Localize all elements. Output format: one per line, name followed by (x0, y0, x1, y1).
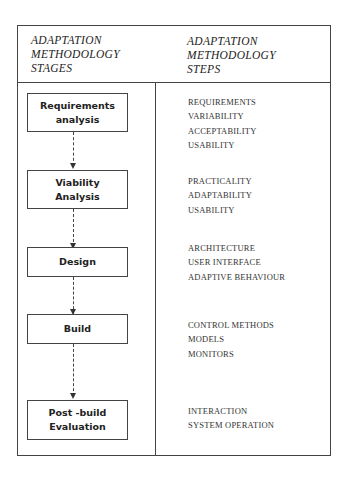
header-steps: ADAPTATION METHODOLOGY STEPS (187, 34, 276, 76)
steps-post-build-evaluation: INTERACTION SYSTEM OPERATION (188, 404, 274, 433)
steps-requirements-analysis: REQUIREMENTS VARIABILITY ACCEPTABILITY U… (188, 95, 257, 152)
stage-box-viability-analysis: Viability Analysis (27, 170, 128, 209)
stage-box-design: Design (27, 247, 128, 277)
stage-box-requirements-analysis: Requirements analysis (27, 93, 128, 132)
header-divider (17, 82, 331, 83)
connector-dashed (73, 209, 76, 247)
steps-design: ARCHITECTURE USER INTERFACE ADAPTIVE BEH… (188, 241, 285, 284)
column-divider (155, 82, 156, 456)
header-stages: ADAPTATION METHODOLOGY STAGES (31, 33, 120, 75)
stage-box-build: Build (27, 314, 128, 344)
connector-dashed (73, 132, 76, 166)
arrow-down-icon (70, 393, 76, 399)
steps-build: CONTROL METHODS MODELS MONITORS (188, 318, 274, 361)
steps-viability-analysis: PRACTICALITY ADAPTABILITY USABILITY (188, 174, 252, 217)
connector-dashed (73, 344, 76, 396)
arrow-down-icon (70, 163, 76, 169)
stage-box-post-build-evaluation: Post -build Evaluation (27, 400, 128, 440)
